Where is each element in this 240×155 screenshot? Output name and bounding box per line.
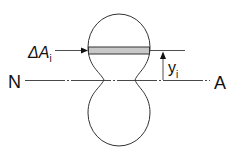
area-strip: [89, 47, 150, 54]
yi-arrowhead: [160, 52, 166, 60]
cross-section-diagram: ΔAi yi N A: [0, 0, 240, 155]
cross-section-outline: [88, 14, 150, 146]
strip-pointer-arrowhead: [81, 48, 88, 54]
delta-a-label: ΔAi: [27, 44, 52, 64]
a-label: A: [214, 73, 226, 93]
yi-label: yi: [168, 59, 178, 80]
n-label: N: [8, 72, 21, 92]
